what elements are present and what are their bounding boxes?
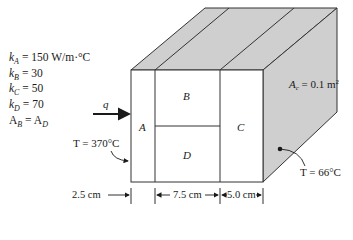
property-kd: kD = 70	[9, 99, 90, 115]
dim-c-label: 5.0 cm	[227, 189, 256, 200]
heat-flow-label: q	[103, 98, 109, 110]
hot-temp-pointer	[111, 151, 128, 161]
dim-a-label: 2.5 cm	[72, 189, 101, 200]
area-relation: AB = AD	[9, 115, 90, 131]
hot-side-temp: T = 370°C	[73, 137, 119, 149]
layer-b-label: B	[183, 90, 190, 102]
dim-bd-label: 7.5 cm	[173, 189, 202, 200]
material-properties: kA = 150 W/m·°C kB = 30 kC = 50 kD = 70 …	[9, 52, 90, 131]
property-kc: kC = 50	[9, 83, 90, 99]
property-ka: kA = 150 W/m·°C	[9, 52, 90, 68]
cold-side-temp: T = 66°C	[300, 166, 341, 178]
layer-d-label: D	[182, 149, 191, 161]
property-kb: kB = 30	[9, 68, 90, 84]
layer-a-label: A	[138, 121, 146, 133]
layer-c-label: C	[237, 121, 245, 133]
